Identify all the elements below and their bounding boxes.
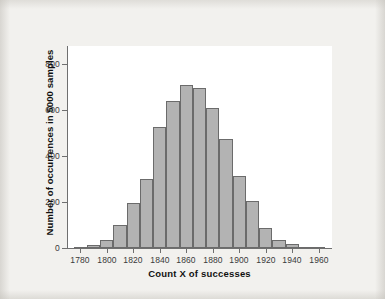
x-axis-tick xyxy=(133,249,134,253)
x-axis-title: Count X of successes xyxy=(67,268,332,279)
histogram-bar xyxy=(246,201,259,248)
histogram-bar xyxy=(180,85,193,248)
histogram-bar xyxy=(166,101,179,248)
histogram-bar xyxy=(193,88,206,248)
histogram-bar xyxy=(219,139,232,248)
x-axis-tick xyxy=(266,249,267,253)
x-axis-tick-label: 1960 xyxy=(302,255,336,265)
x-axis-tick xyxy=(213,249,214,253)
histogram-bar xyxy=(153,127,166,248)
x-axis-tick xyxy=(107,249,108,253)
histogram-bar xyxy=(127,203,140,248)
x-axis-tick xyxy=(160,249,161,253)
y-axis-title: Number of occurrences in 5000 samples xyxy=(44,33,55,253)
histogram-bar xyxy=(272,240,285,248)
histogram-bar xyxy=(140,179,153,248)
x-axis-tick xyxy=(292,249,293,253)
histogram-bar xyxy=(206,108,219,248)
x-axis-tick xyxy=(80,249,81,253)
histogram-bar xyxy=(259,228,272,248)
histogram-bar xyxy=(113,225,126,248)
histogram-bar xyxy=(233,176,246,248)
y-axis-line xyxy=(67,46,68,249)
x-axis-line xyxy=(67,248,332,249)
x-axis-tick xyxy=(186,249,187,253)
x-axis-tick xyxy=(319,249,320,253)
figure-panel: 0200400600800 17801800182018401860188019… xyxy=(0,0,385,299)
x-axis-tick xyxy=(239,249,240,253)
histogram-bar xyxy=(100,240,113,248)
